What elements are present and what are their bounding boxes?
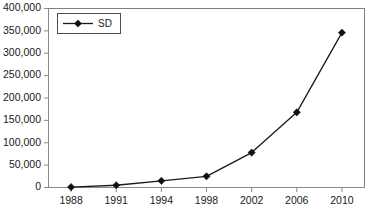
y-tick-label: 350,000: [3, 24, 41, 36]
x-tick-label: 1991: [105, 194, 129, 206]
y-tick-label: 250,000: [3, 68, 41, 80]
y-tick-label: 50,000: [9, 158, 41, 170]
plot-area-frame: [49, 9, 365, 188]
y-tick-label: 300,000: [3, 46, 41, 58]
chart-canvas: 050,000100,000150,000200,000250,000300,0…: [0, 0, 376, 219]
x-tick-label: 1998: [195, 194, 219, 206]
y-tick-label: 400,000: [3, 1, 41, 13]
legend-label-sd: SD: [98, 18, 112, 29]
y-axis: 050,000100,000150,000200,000250,000300,0…: [3, 1, 48, 192]
y-tick-label: 100,000: [3, 136, 41, 148]
y-tick-marks: [44, 9, 49, 188]
x-tick-label: 2010: [330, 194, 354, 206]
x-tick-label: 1988: [59, 194, 83, 206]
y-tick-label: 0: [35, 180, 41, 192]
x-axis: 1988199119941998200220062010: [49, 188, 365, 207]
y-tick-labels: 050,000100,000150,000200,000250,000300,0…: [3, 1, 41, 192]
y-tick-label: 200,000: [3, 91, 41, 103]
x-tick-label: 2006: [285, 194, 309, 206]
line-chart: 050,000100,000150,000200,000250,000300,0…: [0, 0, 376, 219]
legend: SD: [58, 14, 121, 34]
x-tick-label: 1994: [150, 194, 174, 206]
y-tick-label: 150,000: [3, 113, 41, 125]
x-tick-label: 2002: [240, 194, 264, 206]
x-tick-marks: [71, 188, 342, 193]
x-tick-labels: 1988199119941998200220062010: [59, 194, 353, 206]
